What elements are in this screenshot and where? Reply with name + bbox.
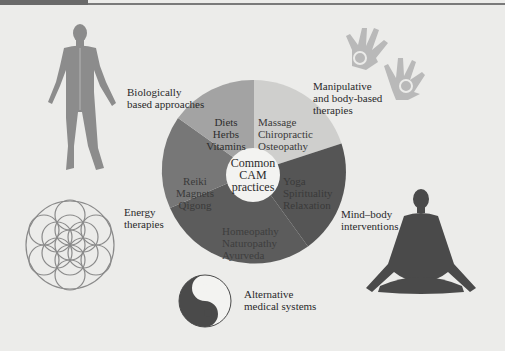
center-label: Common CAM practices [223, 157, 283, 193]
segment-alternative-items: Homeopathy Naturopathy Ayurveda [222, 225, 292, 261]
segment-biological-items: Diets Herbs Vitamins [196, 116, 256, 152]
yin-yang-icon [179, 275, 231, 327]
segment-energy-items: Reiki Magnets Qigong [170, 175, 220, 211]
human-anatomy-icon [48, 24, 116, 170]
label-biological: Biologically based approaches [127, 86, 204, 110]
label-alternative: Alternative medical systems [244, 288, 316, 312]
meditation-figure-icon [366, 189, 476, 294]
label-energy: Energy therapies [124, 206, 164, 230]
segment-mind-body-items: Yoga Spirituality Relaxation [283, 175, 343, 211]
flower-of-life-icon [26, 200, 114, 290]
segment-manipulative-items: Massage Chiropractic Osteopathy [258, 116, 328, 152]
label-mind-body: Mind–body interventions [341, 208, 398, 232]
label-manipulative: Manipulative and body-based therapies [313, 80, 382, 116]
